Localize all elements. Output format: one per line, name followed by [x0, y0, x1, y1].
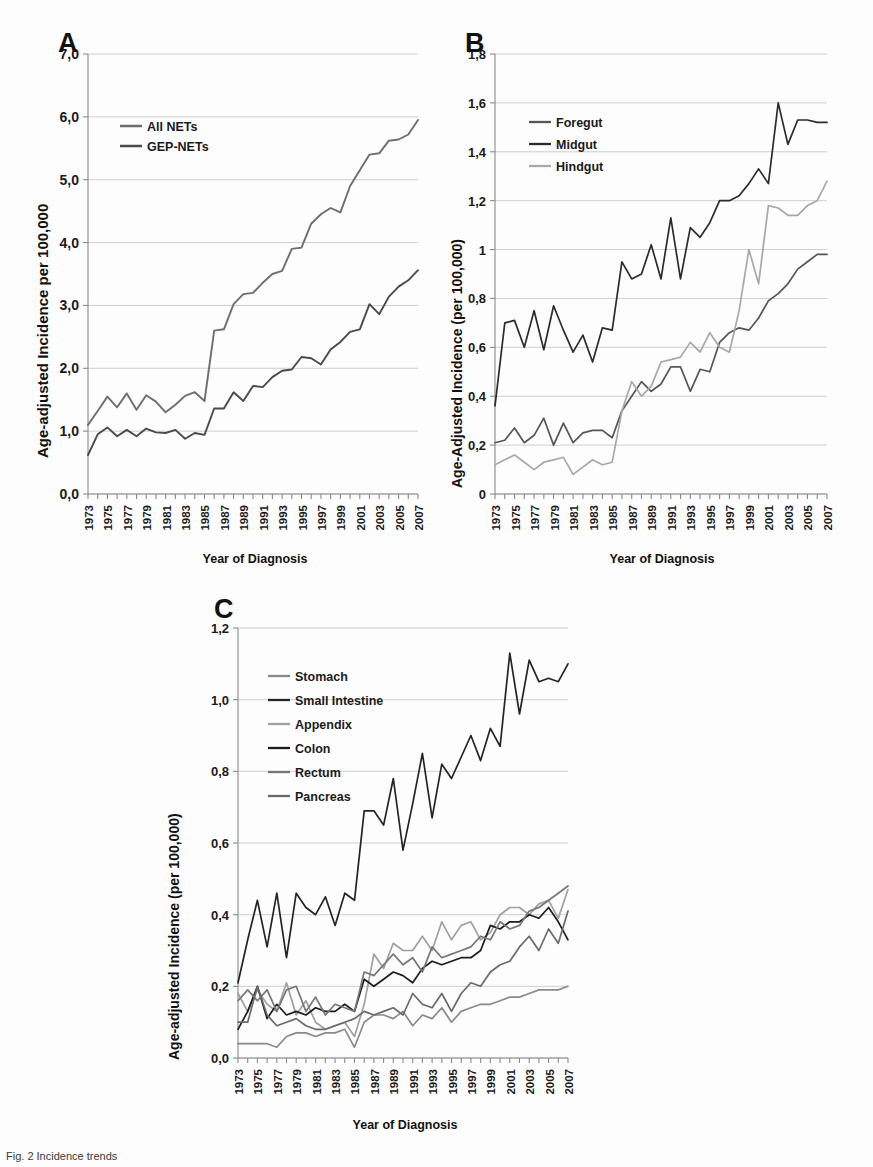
x-tick-label: 1975 — [510, 504, 522, 530]
panel-b: B Age-Adjusted Incidence (per 100,000) 0… — [437, 18, 873, 578]
x-tick-label: 1987 — [369, 1069, 381, 1095]
panel-a: A Age-adjusted Incidence per 100,000 0,0… — [0, 18, 440, 578]
x-tick-label: 1997 — [466, 1069, 478, 1095]
x-tick-label: 1989 — [646, 505, 658, 531]
panel-c: C Age-adjusted Incidence (per 100,000) 0… — [150, 590, 710, 1145]
x-tick-label: 1983 — [588, 505, 600, 531]
x-tick-label: 1993 — [427, 1069, 439, 1095]
legend-label-rectum: Rectum — [295, 766, 341, 780]
x-tick-label: 1979 — [291, 1069, 303, 1095]
x-tick-label: 1993 — [277, 505, 289, 531]
x-tick-label: 2003 — [783, 505, 795, 531]
x-tick-label: 2005 — [802, 504, 814, 530]
y-tick-label: 0,2 — [211, 979, 229, 994]
y-tick-label: 1,0 — [211, 693, 229, 708]
x-tick-label: 1973 — [233, 1069, 245, 1095]
x-tick-label: 1973 — [83, 505, 95, 531]
x-tick-label: 2007 — [413, 505, 425, 531]
x-tick-label: 1991 — [258, 504, 270, 530]
y-tick-label: 5,0 — [60, 172, 80, 188]
x-tick-label: 1975 — [102, 504, 114, 530]
x-tick-label: 1985 — [199, 504, 211, 530]
panel-c-x-axis-label: Year of Diagnosis — [240, 1118, 570, 1132]
y-tick-label: 0,2 — [468, 438, 486, 453]
x-tick-label: 2005 — [394, 504, 406, 530]
x-tick-label: 1993 — [685, 505, 697, 531]
x-tick-label: 2007 — [563, 1069, 575, 1095]
y-tick-label: 0,0 — [211, 1051, 229, 1066]
panel-b-letter: B — [465, 30, 485, 57]
figure-caption: Fig. 2 Incidence trends — [6, 1150, 866, 1166]
x-tick-label: 2005 — [544, 1068, 556, 1094]
x-tick-label: 1995 — [447, 1068, 459, 1094]
panel-a-y-axis-label: Age-adjusted Incidence per 100,000 — [34, 204, 51, 458]
x-tick-label: 2003 — [524, 1069, 536, 1095]
y-tick-label: 1,2 — [468, 194, 486, 209]
x-tick-label: 1977 — [122, 505, 134, 531]
x-tick-label: 1995 — [297, 504, 309, 530]
panel-a-letter: A — [58, 30, 78, 57]
x-tick-label: 1975 — [252, 1068, 264, 1094]
y-tick-label: 0,4 — [211, 908, 230, 923]
y-tick-label: 0,8 — [468, 291, 486, 306]
x-tick-label: 1987 — [627, 505, 639, 531]
series-line-small-intestine — [238, 653, 568, 983]
legend-label-appendix: Appendix — [295, 718, 352, 732]
series-line-gep-nets — [88, 270, 418, 455]
panel-a-plot: 0,01,02,03,04,05,06,07,01973197519771979… — [0, 18, 440, 548]
x-tick-label: 1981 — [568, 504, 580, 530]
series-line-midgut — [495, 103, 827, 406]
x-tick-label: 1983 — [330, 1069, 342, 1095]
y-tick-label: 0,6 — [468, 340, 486, 355]
x-tick-label: 1973 — [490, 505, 502, 531]
series-line-stomach — [238, 986, 568, 1047]
y-tick-label: 1,4 — [468, 145, 487, 160]
y-tick-label: 0,6 — [211, 836, 229, 851]
panel-c-letter: C — [214, 596, 234, 623]
x-tick-label: 1999 — [335, 505, 347, 531]
x-tick-label: 1995 — [705, 504, 717, 530]
x-tick-label: 2001 — [763, 504, 775, 530]
x-tick-label: 1985 — [607, 504, 619, 530]
x-tick-label: 1999 — [485, 1069, 497, 1095]
x-tick-label: 1979 — [549, 505, 561, 531]
legend-label-colon: Colon — [295, 742, 330, 756]
legend-label-foregut: Foregut — [556, 116, 603, 130]
x-tick-label: 1979 — [141, 505, 153, 531]
figure-container: A Age-adjusted Incidence per 100,000 0,0… — [0, 0, 873, 1167]
x-tick-label: 1997 — [316, 505, 328, 531]
series-line-hindgut — [495, 181, 827, 474]
legend-label-small-intestine: Small Intestine — [295, 694, 383, 708]
x-tick-label: 1983 — [180, 505, 192, 531]
series-line-foregut — [495, 254, 827, 445]
x-tick-label: 1991 — [408, 1068, 420, 1094]
legend-label-hindgut: Hindgut — [556, 160, 604, 174]
y-tick-label: 4,0 — [60, 235, 80, 251]
y-tick-label: 0,4 — [468, 389, 487, 404]
x-tick-label: 2007 — [822, 505, 834, 531]
x-tick-label: 1977 — [529, 505, 541, 531]
legend-label-stomach: Stomach — [295, 670, 348, 684]
x-tick-label: 2003 — [374, 505, 386, 531]
x-tick-label: 1999 — [744, 505, 756, 531]
panel-b-y-axis-label: Age-Adjusted Incidence (per 100,000) — [449, 239, 465, 488]
legend-label-pancreas: Pancreas — [295, 790, 351, 804]
y-tick-label: 1,6 — [468, 96, 486, 111]
x-tick-label: 2001 — [355, 504, 367, 530]
series-line-all-nets — [88, 120, 418, 425]
y-tick-label: 0,0 — [60, 486, 80, 502]
legend-label-gep-nets: GEP-NETs — [147, 140, 209, 154]
y-tick-label: 1,0 — [60, 423, 80, 439]
panel-b-plot: 00,20,40,60,811,21,41,61,819731975197719… — [437, 18, 873, 548]
x-tick-label: 1989 — [388, 1069, 400, 1095]
y-tick-label: 1 — [479, 243, 486, 258]
x-tick-label: 1981 — [311, 1068, 323, 1094]
y-tick-label: 0,8 — [211, 764, 229, 779]
x-tick-label: 2001 — [505, 1068, 517, 1094]
y-tick-label: 2,0 — [60, 360, 80, 376]
legend-label-midgut: Midgut — [556, 138, 598, 152]
panel-a-x-axis-label: Year of Diagnosis — [90, 552, 420, 566]
x-tick-label: 1989 — [238, 505, 250, 531]
y-tick-label: 0 — [479, 487, 486, 502]
x-tick-label: 1977 — [272, 1069, 284, 1095]
